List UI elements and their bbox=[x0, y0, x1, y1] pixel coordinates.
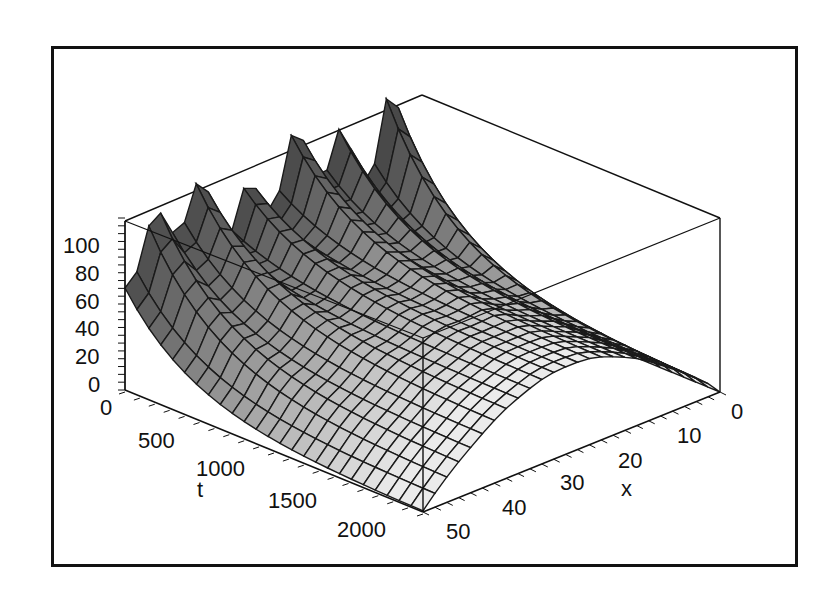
z-tick-100: 100 bbox=[63, 235, 100, 257]
x-tick-40: 40 bbox=[502, 497, 526, 519]
z-tick-60: 60 bbox=[75, 291, 99, 313]
t-axis-label: t bbox=[197, 479, 203, 501]
z-tick-80: 80 bbox=[75, 263, 99, 285]
t-tick-1500: 1500 bbox=[268, 490, 317, 512]
t-tick-500: 500 bbox=[138, 430, 175, 452]
t-tick-0: 0 bbox=[100, 397, 112, 419]
x-tick-50: 50 bbox=[446, 521, 470, 543]
t-tick-1000: 1000 bbox=[196, 458, 245, 480]
x-tick-30: 30 bbox=[560, 472, 584, 494]
surface-plot bbox=[0, 0, 838, 605]
x-tick-20: 20 bbox=[618, 450, 642, 472]
t-tick-2000: 2000 bbox=[337, 519, 386, 541]
x-tick-10: 10 bbox=[677, 425, 701, 447]
z-tick-40: 40 bbox=[75, 318, 99, 340]
x-tick-0: 0 bbox=[731, 401, 743, 423]
z-tick-0: 0 bbox=[88, 374, 100, 396]
x-axis-label: x bbox=[621, 478, 632, 500]
z-tick-20: 20 bbox=[75, 346, 99, 368]
